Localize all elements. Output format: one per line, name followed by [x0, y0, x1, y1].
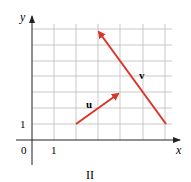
y-tick-label: 1: [20, 118, 26, 130]
vector-v: [99, 32, 166, 124]
vector-u: [76, 94, 118, 124]
vector-v-label: v: [139, 69, 145, 81]
caption: II: [86, 168, 94, 182]
vector-u-label: u: [86, 98, 92, 110]
vector-diagram: x y 0 1 1 u v II: [0, 0, 191, 182]
y-axis-label: y: [19, 10, 26, 24]
x-axis-label: x: [175, 143, 182, 157]
origin-label: 0: [21, 144, 27, 156]
grid: [32, 24, 172, 140]
x-tick-label: 1: [51, 144, 57, 156]
